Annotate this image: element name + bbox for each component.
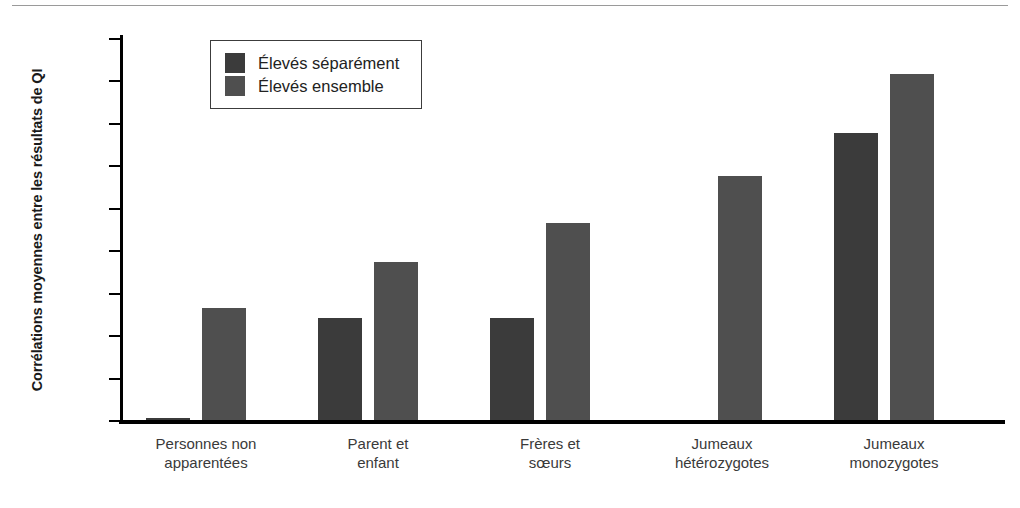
y-tick-mark (109, 165, 120, 167)
legend-label: Élevés ensemble (258, 77, 384, 96)
bar (374, 262, 418, 420)
chart-legend: Élevés séparémentÉlevés ensemble (210, 40, 422, 109)
legend-item: Élevés ensemble (225, 76, 399, 96)
x-axis-category-label: Jumeaux hétérozygotes (624, 434, 820, 472)
bar (718, 176, 762, 420)
y-axis-title: Corrélations moyennes entre les résultat… (29, 30, 45, 430)
legend-label: Élevés séparément (258, 54, 399, 73)
y-tick-mark (109, 80, 120, 82)
y-tick-mark (109, 123, 120, 125)
bar (146, 418, 190, 420)
bar (490, 318, 534, 420)
bar (202, 308, 246, 420)
x-axis-category-label: Parent et enfant (280, 434, 476, 472)
x-axis-category-label: Personnes non apparentées (108, 434, 304, 472)
x-axis-category-label: Jumeaux monozygotes (796, 434, 992, 472)
top-divider-rule (12, 5, 1008, 6)
y-tick-mark (109, 208, 120, 210)
y-tick-mark (109, 38, 120, 40)
y-axis-line (120, 35, 123, 423)
x-axis-line (119, 420, 1005, 424)
bar (546, 223, 590, 420)
legend-item: Élevés séparément (225, 53, 399, 73)
y-tick-mark (109, 420, 120, 422)
y-tick-mark (109, 250, 120, 252)
y-tick-mark (109, 335, 120, 337)
y-tick-mark (109, 378, 120, 380)
legend-swatch-icon (225, 76, 245, 96)
bar (318, 318, 362, 420)
bar (834, 133, 878, 420)
y-tick-mark (109, 293, 120, 295)
bar (890, 74, 934, 420)
chart-figure: Corrélations moyennes entre les résultat… (0, 0, 1020, 508)
x-axis-category-label: Frères et sœurs (452, 434, 648, 472)
legend-swatch-icon (225, 53, 245, 73)
